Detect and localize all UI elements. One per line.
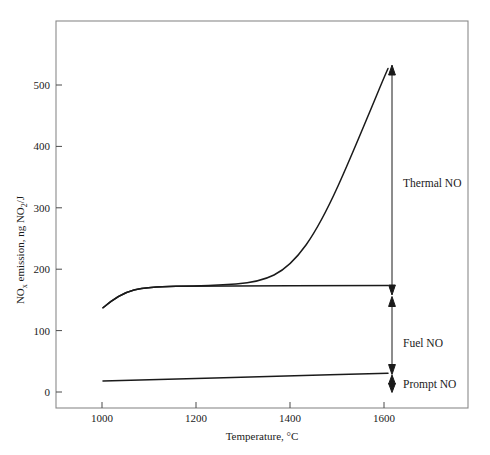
x-tick-label-1200: 1200 <box>185 412 208 424</box>
y-axis-title: NOx emission, ng NO2/J <box>14 195 29 304</box>
annotation-label-thermal-no: Thermal NO <box>403 177 461 189</box>
y-axis-title-lead: NO <box>14 288 26 304</box>
x-axis-title: Temperature, °C <box>226 430 299 442</box>
y-tick-label-0: 0 <box>45 386 51 398</box>
x-tick-label-1400: 1400 <box>279 412 302 424</box>
nox-emission-line-chart: 0 100 200 300 400 500 1000 1200 1400 160… <box>0 0 490 455</box>
x-axis-tick-labels: 1000 1200 1400 1600 <box>91 412 396 424</box>
y-tick-label-100: 100 <box>34 325 51 337</box>
y-tick-label-200: 200 <box>34 263 51 275</box>
y-tick-label-500: 500 <box>34 79 51 91</box>
y-tick-label-300: 300 <box>34 202 51 214</box>
annotation-label-fuel-no: Fuel NO <box>403 337 443 349</box>
y-axis-tick-labels: 0 100 200 300 400 500 <box>34 79 51 398</box>
y-tick-label-400: 400 <box>34 140 51 152</box>
x-tick-label-1000: 1000 <box>91 412 114 424</box>
annotation-label-prompt-no: Prompt NO <box>403 378 456 391</box>
x-axis-title-text: Temperature, °C <box>226 430 299 442</box>
plot-area-background <box>56 21 468 408</box>
chart-figure: 0 100 200 300 400 500 1000 1200 1400 160… <box>0 0 490 455</box>
x-tick-label-1600: 1600 <box>373 412 396 424</box>
y-axis-title-tail: /J <box>14 195 26 203</box>
y-axis-title-mid: emission, ng NO <box>14 207 26 284</box>
